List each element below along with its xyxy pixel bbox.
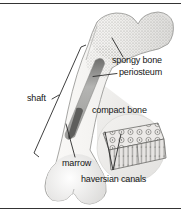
label-periosteum: periosteum — [119, 68, 162, 77]
label-compact-bone: compact bone — [92, 106, 147, 115]
figure-bone-anatomy: spongy bone periosteum shaft compact bon… — [0, 0, 181, 213]
label-haversian-canals: haversian canals — [81, 175, 146, 184]
label-marrow: marrow — [62, 159, 91, 168]
label-shaft: shaft — [27, 94, 46, 103]
label-spongy-bone: spongy bone — [112, 56, 162, 65]
